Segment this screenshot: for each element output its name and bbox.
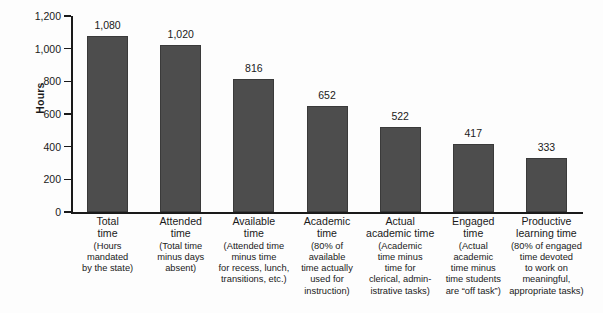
bar-column[interactable]: 1,020: [160, 16, 201, 212]
bar-value-label: 816: [215, 62, 292, 74]
bar[interactable]: [453, 144, 494, 212]
plot-area: 1,0801,020816652522417333: [71, 16, 583, 212]
bar[interactable]: [307, 106, 348, 212]
y-axis-tick: [64, 48, 71, 49]
y-axis-tick-label: 800: [5, 75, 61, 87]
y-axis-tick: [64, 146, 71, 147]
x-axis-category-labels: Totaltime(Hoursmandatedby the state)Atte…: [71, 216, 583, 311]
bar-column[interactable]: 417: [453, 16, 494, 212]
bar[interactable]: [380, 127, 421, 212]
y-axis-tick-label: 1,000: [5, 43, 61, 55]
bar[interactable]: [160, 45, 201, 212]
category-label-description: (80% of engagedtime devotedto work onmea…: [504, 241, 589, 297]
y-axis-tick: [64, 211, 71, 212]
bar-value-label: 652: [289, 89, 366, 101]
bar[interactable]: [87, 36, 128, 212]
y-axis-tick-label: 200: [5, 173, 61, 185]
bar-column[interactable]: 1,080: [87, 16, 128, 212]
y-axis-tick: [64, 113, 71, 114]
bar-chart: Hours 02004006008001,0001,200 1,0801,020…: [0, 0, 603, 313]
bar-column[interactable]: 816: [233, 16, 274, 212]
y-axis-tick: [64, 15, 71, 16]
category-label-title: Productivelearning time: [504, 216, 589, 239]
category-label: Productivelearning time(80% of engagedti…: [504, 216, 589, 297]
y-axis-tick-label: 0: [5, 206, 61, 218]
y-axis-tick-label: 600: [5, 108, 61, 120]
y-axis-tick-label: 400: [5, 141, 61, 153]
bar-column[interactable]: 333: [526, 16, 567, 212]
bar[interactable]: [233, 79, 274, 212]
x-axis-line: [71, 212, 583, 214]
bar[interactable]: [526, 158, 567, 212]
y-axis-tick: [64, 81, 71, 82]
bar-value-label: 1,080: [69, 19, 146, 31]
bar-value-label: 417: [435, 127, 512, 139]
y-axis-tick: [64, 179, 71, 180]
y-axis-tick-label: 1,200: [5, 10, 61, 22]
bar-value-label: 333: [508, 141, 585, 153]
bar-column[interactable]: 652: [307, 16, 348, 212]
bar-value-label: 1,020: [142, 28, 219, 40]
bar-value-label: 522: [362, 110, 439, 122]
bar-column[interactable]: 522: [380, 16, 421, 212]
